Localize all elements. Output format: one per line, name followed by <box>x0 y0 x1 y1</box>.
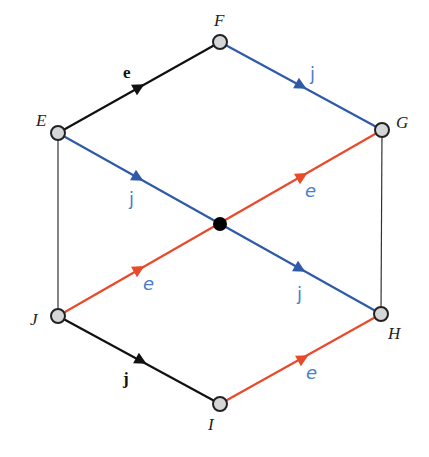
arrow-icon <box>293 78 309 94</box>
edge-label-E-center: j <box>128 188 134 209</box>
arrow-icon <box>131 79 147 95</box>
center-junction <box>213 217 227 231</box>
arrow-icon <box>133 353 149 369</box>
graph-diagram: E F G H I J e j j j e e j e <box>0 0 429 457</box>
node-label-J: J <box>30 310 39 329</box>
edge-label-F-G: j <box>309 63 315 84</box>
node-E <box>51 126 65 140</box>
node-label-G: G <box>396 113 408 132</box>
arrow-icon <box>130 170 146 186</box>
node-H <box>374 307 388 321</box>
node-label-I: I <box>207 415 215 434</box>
edge-label-E-F: e <box>123 63 131 82</box>
edge-label-J-I: j <box>122 369 129 388</box>
node-label-F: F <box>213 11 225 30</box>
node-I <box>213 397 227 411</box>
node-label-E: E <box>35 111 47 130</box>
node-J <box>51 309 65 323</box>
node-F <box>213 35 227 49</box>
edge-label-J-center: e <box>143 273 154 294</box>
edge-label-I-H: e <box>306 362 317 383</box>
node-G <box>375 123 389 137</box>
edge-G-H <box>381 130 382 314</box>
edge-label-center-H: j <box>296 283 302 304</box>
node-label-H: H <box>387 324 402 343</box>
edge-label-center-G: e <box>305 180 316 201</box>
arrow-icon <box>292 261 308 277</box>
